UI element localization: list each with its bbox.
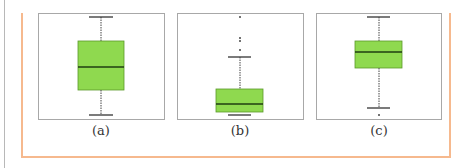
iqr-box xyxy=(216,89,263,112)
panel-c-label: (c) xyxy=(349,123,409,138)
outlier-point xyxy=(239,40,241,42)
outlier-point xyxy=(378,114,380,116)
outlier-point xyxy=(239,16,241,18)
outlier-point xyxy=(239,37,241,39)
panel-a xyxy=(39,14,165,120)
panel-a-label: (a) xyxy=(71,123,131,138)
panel-c xyxy=(317,14,442,120)
boxplot-figure xyxy=(0,0,472,168)
panel-b-label: (b) xyxy=(210,123,270,138)
panel-b xyxy=(178,14,304,120)
iqr-box xyxy=(355,41,402,68)
iqr-box xyxy=(78,41,124,90)
outlier-point xyxy=(239,49,241,51)
